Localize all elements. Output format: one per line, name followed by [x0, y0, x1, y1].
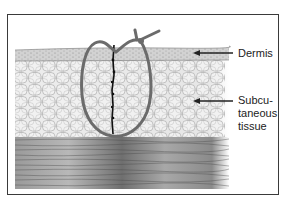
subcutaneous-label-line2: taneous	[238, 107, 277, 120]
subcutaneous-layer	[15, 60, 229, 137]
subcutaneous-label-line1: Subcu-	[238, 94, 273, 107]
muscle-layer	[15, 136, 229, 189]
subcutaneous-label-line3: tissue	[238, 120, 267, 133]
suture-knot	[135, 30, 137, 40]
dermis-label: Dermis	[238, 47, 273, 60]
